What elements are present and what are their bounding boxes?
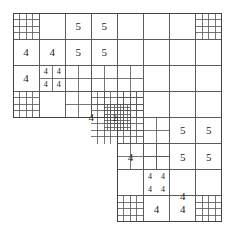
degree-label: 4 [180,203,186,215]
degree-label: 4 [154,203,160,215]
mesh-cell [196,39,222,65]
mesh-cell [117,170,143,196]
degree-label: 5 [206,151,212,163]
mesh-cell [39,13,65,39]
degree-label: 4 [57,80,61,89]
degree-label: 4 [23,72,29,84]
mesh-cell [144,13,170,39]
degree-label: 4 [161,185,165,194]
degree-label: 5 [206,124,212,136]
mesh-cell [196,170,222,196]
degree-label: 4 [180,190,186,202]
degree-label: 4 [89,111,95,123]
degree-label: 5 [102,20,108,32]
mesh-cell [39,91,65,117]
degree-label: 5 [102,46,108,58]
mesh-cell [117,13,143,39]
degree-label: 4 [148,172,152,181]
degree-label: 4 [23,46,29,58]
degree-label: 4 [128,151,134,163]
degree-label: 5 [76,20,82,32]
mesh-cell [170,13,196,39]
degree-label: 4 [148,185,152,194]
degree-label: 2 [113,114,117,123]
mesh-cell [144,65,170,91]
degree-label: 4 [57,67,61,76]
mesh-cell [144,91,170,117]
mesh-cell [144,39,170,65]
degree-label: 5 [180,151,186,163]
mesh-cell [196,91,222,117]
mesh-cell [196,65,222,91]
degree-label: 5 [76,46,82,58]
degree-label: 5 [180,124,186,136]
mesh-cell [170,39,196,65]
l-shaped-mesh-diagram: 5544554444442554554444444 [0,0,232,241]
degree-label: 4 [49,46,55,58]
degree-label: 4 [161,172,165,181]
mesh-cell [170,91,196,117]
mesh-cell [170,65,196,91]
mesh-cell [117,39,143,65]
degree-label: 4 [44,80,48,89]
degree-label: 4 [44,67,48,76]
